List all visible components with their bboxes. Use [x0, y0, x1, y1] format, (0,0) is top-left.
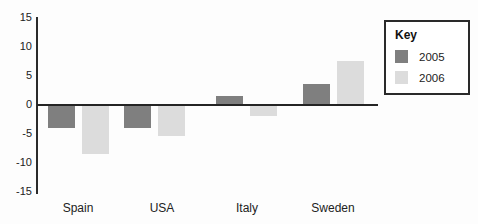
y-tick-label: -15 — [0, 186, 32, 197]
legend-swatch-icon — [395, 50, 408, 63]
bar-spain-2006 — [82, 105, 109, 154]
y-tick-label: -10 — [0, 157, 32, 168]
legend-label: 2005 — [419, 51, 445, 63]
bar-chart-figure: 151050-5-10-15 SpainUSAItalySweden Key 2… — [0, 0, 478, 224]
x-label-sweden: Sweden — [311, 201, 354, 215]
y-tick-label: 5 — [0, 70, 32, 81]
legend-item-2005: 2005 — [395, 50, 468, 63]
legend-label: 2006 — [419, 72, 445, 84]
y-tick-label: -5 — [0, 128, 32, 139]
bar-sweden-2006 — [337, 61, 364, 105]
y-tick-label: 10 — [0, 41, 32, 52]
bar-spain-2005 — [48, 105, 75, 128]
legend-item-2006: 2006 — [395, 71, 468, 84]
bar-usa-2005 — [124, 105, 151, 128]
zero-baseline — [37, 104, 378, 106]
x-label-italy: Italy — [236, 201, 258, 215]
bar-usa-2006 — [158, 105, 185, 137]
y-tick-label: 0 — [0, 99, 32, 110]
y-tick-label: 15 — [0, 12, 32, 23]
legend-items: 20052006 — [386, 50, 468, 84]
bar-sweden-2005 — [303, 84, 330, 104]
y-axis-line — [36, 17, 38, 194]
bar-italy-2006 — [250, 105, 277, 117]
x-label-spain: Spain — [63, 201, 94, 215]
x-label-usa: USA — [150, 201, 175, 215]
legend-box: Key 20052006 — [384, 20, 470, 95]
legend-swatch-icon — [395, 71, 408, 84]
legend-title: Key — [395, 28, 468, 42]
